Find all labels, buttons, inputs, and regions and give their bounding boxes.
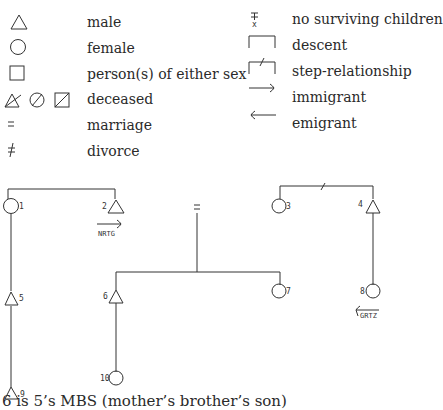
- person-id-6: 6: [103, 292, 108, 301]
- person-1-female: [4, 199, 19, 214]
- step-relationship-icon: [249, 58, 275, 74]
- marriage-icon: [8, 122, 14, 126]
- descent-icon: [249, 36, 275, 48]
- immigrant-arrow-icon: [249, 84, 274, 92]
- square-either-sex-icon: [10, 66, 24, 80]
- marriage-symbol: [194, 205, 200, 209]
- sibling-descent-line-6-7: [116, 272, 280, 290]
- divorce-icon: [8, 143, 15, 157]
- person-id-10: 10: [100, 374, 110, 383]
- person-id-1: 1: [19, 202, 24, 211]
- deceased-square-icon: [55, 93, 69, 107]
- immigrant-arrow-person-2: [97, 220, 121, 228]
- step-relationship-line-3-4: [280, 186, 373, 199]
- emigrant-arrow-icon: [251, 111, 276, 119]
- person-id-2: 2: [102, 202, 107, 211]
- person-7-female: [272, 284, 286, 298]
- person-id-8: 8: [360, 287, 365, 296]
- deceased-triangle-icon: [5, 94, 21, 107]
- diagram-caption: 6 is 5’s MBS (mother’s brother’s son): [2, 392, 287, 410]
- person-id-4: 4: [358, 200, 363, 209]
- person-6-male: [109, 290, 123, 303]
- sibling-descent-line-1-2: [8, 189, 115, 199]
- person-id-5: 5: [19, 294, 24, 303]
- immigrant-tag-nrtg: NRTG: [98, 230, 115, 238]
- person-4-male: [366, 200, 380, 213]
- no-children-x-mark: x: [252, 20, 257, 29]
- deceased-circle-icon: [30, 93, 44, 107]
- person-8-female: [366, 284, 380, 298]
- person-2-male: [108, 200, 124, 213]
- person-3-female: [272, 199, 286, 213]
- triangle-male-icon: [11, 15, 27, 29]
- no-surviving-children-icon: [251, 13, 258, 20]
- emigrant-tag-grtz: GRTZ: [360, 312, 377, 320]
- person-id-3: 3: [286, 202, 291, 211]
- person-id-7: 7: [286, 287, 291, 296]
- person-10-female: [109, 371, 123, 385]
- person-5-male: [5, 292, 18, 305]
- circle-female-icon: [11, 40, 26, 55]
